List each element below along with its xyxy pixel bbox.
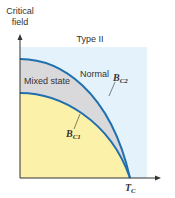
diagram-title: Type II <box>76 34 103 44</box>
y-axis-label-line1: Critical <box>6 6 34 16</box>
mixed-state-label: Mixed state <box>24 76 70 86</box>
tc-label: TC <box>125 182 136 195</box>
y-axis-label-line2: field <box>12 17 29 27</box>
x-axis-arrow-icon <box>155 176 161 181</box>
normal-region-label: Normal <box>80 69 109 79</box>
y-axis-arrow-icon <box>18 34 23 40</box>
phase-diagram: Critical field Type II Normal Mixed stat… <box>0 0 175 198</box>
